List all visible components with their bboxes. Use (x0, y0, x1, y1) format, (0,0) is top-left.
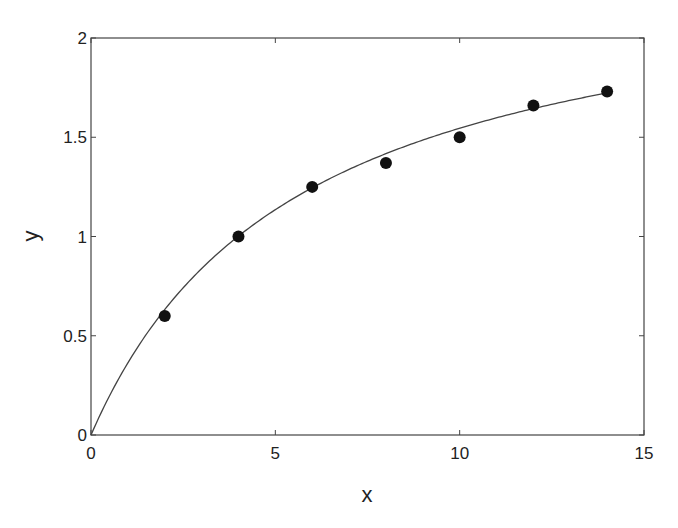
data-point (601, 86, 613, 98)
data-points (159, 86, 613, 322)
data-point (380, 157, 392, 169)
y-axis-label: y (18, 231, 43, 242)
data-point (306, 181, 318, 193)
fit-curve-line (91, 93, 607, 435)
y-tick-label: 0.5 (63, 327, 87, 346)
data-point (159, 310, 171, 322)
data-point (232, 231, 244, 243)
x-tick-label: 0 (86, 444, 95, 463)
fit-curve (91, 93, 607, 435)
y-tick-label: 0 (78, 426, 87, 445)
x-tick-label: 5 (271, 444, 280, 463)
x-tick-label: 10 (450, 444, 469, 463)
y-tick-label: 1.5 (63, 128, 87, 147)
data-point (527, 99, 539, 111)
scatter-plot-with-fit: 05101500.511.52 x y (0, 0, 678, 528)
x-tick-label: 15 (635, 444, 654, 463)
axes-frame (91, 38, 644, 435)
x-axis-label: x (362, 482, 373, 507)
data-point (454, 131, 466, 143)
axes: 05101500.511.52 (63, 29, 653, 463)
y-tick-label: 1 (78, 228, 87, 247)
y-tick-label: 2 (78, 29, 87, 48)
